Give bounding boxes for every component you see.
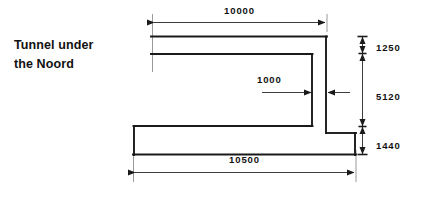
dim-label-wall-thickness: 1000 <box>257 74 282 85</box>
dim-label-top-width: 10000 <box>152 5 327 16</box>
dim-label-bottom-width: 10500 <box>133 154 356 165</box>
tunnel-profile <box>133 37 356 156</box>
drawing-title: Tunnel under the Noord <box>14 36 142 74</box>
dim-label-floor-height: 1440 <box>376 140 401 151</box>
technical-drawing: Tunnel under the Noord 10000 10500 1000 … <box>0 0 421 198</box>
drawing-title-line-2: the Noord <box>14 55 142 74</box>
dimension-line-vertical-chain <box>358 36 368 155</box>
dim-label-roof-height: 1250 <box>376 42 401 53</box>
dim-label-clear-height: 5120 <box>376 91 401 102</box>
drawing-title-line-1: Tunnel under <box>14 36 142 55</box>
tunnel-cross-section-drawing <box>0 0 421 198</box>
